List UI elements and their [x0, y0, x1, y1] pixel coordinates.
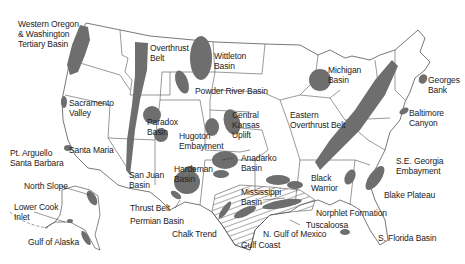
label-michigan-basin: Michigan Basin	[328, 65, 361, 85]
label-baltimore-canyon: Baltimore Canyon	[409, 108, 444, 128]
label-georges-bank: Georges Bank	[428, 75, 460, 95]
label-north-slope: North Slope	[24, 181, 68, 191]
label-mississippi-basin: Mississippi Basin	[241, 187, 281, 207]
label-hugoton-embayment: Hugoton Embayment	[179, 131, 223, 151]
label-blake-plateau: Blake Plateau	[384, 190, 435, 200]
label-hardeman-basin: Hardeman Basin	[174, 164, 213, 184]
label-black-warrior: Black Warrior	[311, 173, 338, 193]
label-chalk-trend: Chalk Trend	[172, 229, 217, 239]
label-san-juan-basin: San Juan Basin	[129, 170, 164, 190]
label-lower-cook-inlet: Lower Cook Inlet	[14, 202, 58, 222]
label-central-kansas-uplift: Central Kansas Uplift	[232, 110, 260, 140]
label-anadarko-basin: Anadarko Basin	[241, 153, 277, 173]
label-santa-maria: Santa Maria	[69, 145, 114, 155]
label-eastern-overthrust-belt: Eastern Overthrust Belt	[290, 110, 345, 130]
label-paradox-basin: Paradox Basin	[147, 117, 178, 137]
label-sacramento-valley: Sacramento Valley	[69, 98, 114, 118]
label-gulf-coast: Gulf Coast	[241, 240, 280, 250]
label-norphlet-formation: Norphlet Formation	[316, 208, 387, 218]
label-se-georgia-embayment: S.E. Georgia Embayment	[396, 156, 443, 176]
label-powder-river-basin: Powder River Basin	[195, 86, 268, 96]
label-permian-basin: Permian Basin	[130, 216, 184, 226]
label-s-florida-basin: S. Florida Basin	[378, 233, 436, 243]
label-thrust-belt: Thrust Belt	[130, 203, 170, 213]
label-western-oregon-washington: Western Oregon & Washington Tertiary Bas…	[18, 19, 79, 49]
label-gulf-of-alaska: Gulf of Alaska	[28, 237, 79, 247]
us-basins-map: Western Oregon & Washington Tertiary Bas…	[0, 0, 465, 264]
label-n-gulf-of-mexico: N. Gulf of Mexico	[263, 229, 327, 239]
label-pt-arguello-santa-barbara: Pt. Arguello Santa Barbara	[10, 148, 64, 168]
label-wittleton-basin: Wittleton Basin	[214, 51, 246, 71]
label-overthrust-belt: Overthrust Belt	[150, 43, 189, 63]
